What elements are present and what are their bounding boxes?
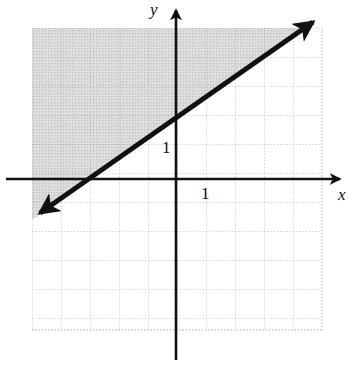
x-axis-tick-label-1: 1: [201, 185, 210, 202]
y-axis-tick-label-1: 1: [162, 139, 171, 156]
x-axis-label: x: [338, 186, 346, 203]
graph-figure: y x 1 1: [0, 0, 356, 367]
y-axis-label: y: [150, 1, 158, 18]
coordinate-plane: [0, 0, 356, 367]
